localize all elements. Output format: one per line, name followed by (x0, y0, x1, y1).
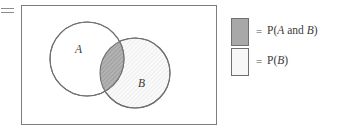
legend-label-intersection: P(A and B) (267, 24, 318, 36)
legend-label-var-b: B (307, 24, 314, 36)
set-b-swatch (231, 48, 249, 76)
legend-label-suffix-2: ) (284, 54, 288, 66)
set-a-label: A (74, 43, 83, 55)
legend-equals-icon-1: = (256, 25, 262, 37)
legend-equals-icon-2: = (256, 55, 262, 67)
legend-label-suffix-1: ) (314, 24, 318, 36)
equals-bar-bottom (1, 12, 14, 13)
set-b-label: B (138, 77, 145, 89)
legend-label-prefix-2: P( (267, 54, 277, 66)
legend-label-set-b: P(B) (267, 54, 288, 66)
legend: = P(A and B) = P(B) (231, 18, 340, 80)
legend-label-mid-1: and (284, 24, 306, 36)
legend-label-prefix-1: P( (267, 24, 277, 36)
equals-bar-top (1, 8, 14, 9)
venn-diagram-figure: A B = P(A and B) = P(B) (0, 0, 340, 137)
intersection-swatch (231, 18, 249, 46)
leading-equals-sign (1, 5, 14, 17)
venn-circles: A B (21, 5, 219, 127)
